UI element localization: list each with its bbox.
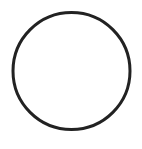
circle-outline-icon (13, 13, 130, 130)
drawing-canvas (0, 0, 142, 149)
